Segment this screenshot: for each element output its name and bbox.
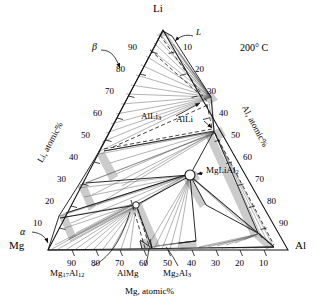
corner-label-mg: Mg [9, 240, 24, 251]
right-tick-20: 20 [195, 65, 204, 74]
left-tick-20: 20 [45, 197, 54, 206]
bottom-tick-70: 70 [115, 259, 124, 268]
liquid-leader [175, 35, 193, 41]
phase-label-beta: β [92, 42, 97, 52]
alli3-sub: 3 [158, 114, 161, 121]
mg17al12-base1: Mg [50, 268, 63, 278]
bottom-tick-60: 60 [139, 259, 148, 268]
alpha-leader [32, 232, 48, 243]
left-tick-50: 50 [81, 131, 90, 140]
right-tick-80: 80 [267, 197, 276, 206]
bottom-tick-20: 20 [235, 259, 244, 268]
phase-label-alpha: α [20, 227, 25, 237]
right-tick-70: 70 [255, 175, 264, 184]
phase-label-alli3: AlLi3 [141, 112, 161, 122]
right-tick-30: 30 [207, 87, 216, 96]
right-tick-10: 10 [183, 43, 192, 52]
mglial2-leader [197, 173, 203, 174]
mg17al12-base2: Al [69, 268, 78, 278]
phase-label-liquid: L [196, 28, 201, 37]
alli-leader [204, 121, 212, 128]
phase-label-mg17al12: Mg17Al12 [50, 269, 84, 279]
right-tick-60: 60 [243, 153, 252, 162]
alli-base: AlLi [176, 114, 193, 124]
bottom-axis-title-text: Mg, atomic [125, 286, 167, 296]
mg2al3-sub2: 3 [188, 271, 191, 278]
phase-label-almg: AlMg [117, 269, 139, 278]
phase-label-mglial2: MgLiAl2 [206, 166, 239, 176]
ternary-diagram-figure: Li Mg Al 200° C 90 80 70 60 50 40 30 20 … [0, 0, 316, 304]
right-tick-40: 40 [219, 109, 228, 118]
alli3-base: AlLi [141, 111, 158, 121]
mglial2-base: MgLiAl [206, 165, 236, 175]
phase-label-mg2al3: Mg2Al3 [163, 269, 191, 279]
left-tick-80: 80 [116, 65, 125, 74]
left-tick-10: 10 [33, 219, 42, 228]
right-tick-50: 50 [231, 131, 240, 140]
left-tick-60: 60 [93, 109, 102, 118]
left-tick-90: 90 [128, 43, 137, 52]
mg2al3-base2: Al [179, 268, 188, 278]
bottom-tick-50: 50 [163, 259, 172, 268]
temperature-label: 200° C [240, 43, 268, 53]
bottom-tick-30: 30 [211, 259, 220, 268]
left-tick-70: 70 [105, 87, 114, 96]
right-tick-90: 90 [279, 219, 288, 228]
bottom-tick-90: 90 [67, 259, 76, 268]
bottom-tick-80: 80 [91, 259, 100, 268]
mglial2-sub: 2 [236, 168, 239, 175]
bottom-tick-10: 10 [259, 259, 268, 268]
corner-label-li: Li [153, 3, 163, 14]
mg17al12-sub2: 12 [78, 271, 84, 278]
bottom-axis-title-pct: % [167, 286, 175, 296]
invariant-marker-center [133, 202, 139, 208]
corner-label-al: Al [295, 240, 306, 251]
phase-label-alli: AlLi [176, 115, 193, 124]
bottom-tick-40: 40 [187, 259, 196, 268]
bottom-axis-title: Mg, atomic% [125, 287, 174, 296]
left-tick-30: 30 [57, 175, 66, 184]
mg2al3-base1: Mg [163, 268, 176, 278]
mglial2-marker [185, 170, 195, 180]
almg-base: AlMg [117, 268, 139, 278]
left-tick-40: 40 [69, 153, 78, 162]
